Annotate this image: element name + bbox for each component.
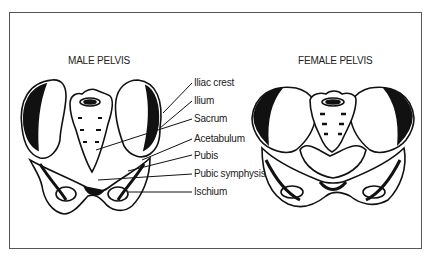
label-ischium: Ischium	[194, 186, 227, 197]
female-pelvis-drawing	[252, 87, 414, 206]
pelvis-illustrations	[0, 0, 435, 262]
male-pelvis-drawing	[21, 80, 161, 214]
label-iliac-crest: Iliac crest	[194, 77, 234, 88]
label-pubis: Pubis	[194, 150, 218, 161]
label-sacrum: Sacrum	[194, 113, 227, 124]
label-pubic-symphysis: Pubic symphysis	[194, 168, 265, 179]
label-acetabulum: Acetabulum	[194, 133, 245, 144]
label-ilium: Ilium	[194, 95, 214, 106]
